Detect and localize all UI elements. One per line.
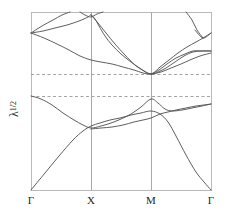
band-curve-optical-band-6 — [151, 51, 211, 74]
x-tick-label-gamma-left: Γ — [19, 193, 43, 207]
x-tick-label-gamma-right: Γ — [199, 193, 223, 207]
y-axis-label-base: λ — [7, 111, 22, 117]
band-structure-figure: λ1/2 Γ X M Γ — [0, 0, 228, 219]
x-tick-label-m: M — [139, 193, 163, 207]
plot-frame-rect — [32, 13, 212, 191]
band-curve-optical-band-8 — [186, 12, 203, 38]
x-tick-label-x: X — [79, 193, 103, 207]
plot-frame — [32, 13, 212, 191]
band-curve-acoustic-band-2 — [31, 96, 211, 128]
y-axis-label: λ1/2 — [0, 97, 45, 121]
vertical-gridlines — [92, 12, 152, 190]
band-curve-optical-band-3 — [31, 12, 70, 33]
horizontal-dashed-lines — [31, 75, 211, 97]
band-curves — [31, 12, 211, 190]
band-curve-acoustic-band-1 — [31, 111, 211, 190]
